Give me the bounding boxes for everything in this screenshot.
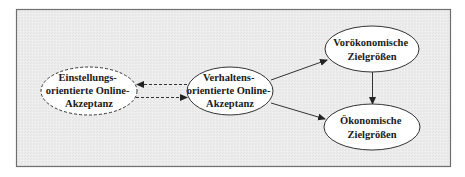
node-label-line: Akzeptanz [206,98,254,109]
node-label-line: Ökonomische [340,114,402,126]
node-einstellungsorientierte-akzeptanz: Einstellungs- orientierte Online- Akzept… [41,67,137,115]
node-ellipse [324,104,420,150]
node-verhaltensorientierte-akzeptanz: Verhaltens- orientierte Online- Akzeptan… [187,67,273,115]
node-label-line: Zielgrößen [348,129,397,140]
node-label-line: Akzeptanz [65,98,113,109]
node-label-line: Einstellungs- [59,72,118,83]
node-label-line: Vorökonomische [333,37,408,48]
diagram-canvas: Einstellungs- orientierte Online- Akzept… [0,0,465,177]
node-label-line: Zielgrößen [348,51,397,62]
node-label-line: orientierte Online- [187,85,271,96]
node-label-line: orientierte Online- [46,85,130,96]
node-label-line: Verhaltens- [203,72,255,83]
node-oekonomische-zielgroessen: Ökonomische Zielgrößen [324,104,420,150]
node-ellipse [325,26,419,72]
node-voroekonomische-zielgroessen: Vorökonomische Zielgrößen [325,26,419,72]
